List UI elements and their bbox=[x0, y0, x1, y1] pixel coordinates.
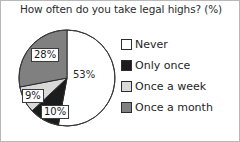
legend-label-never: Never bbox=[135, 39, 168, 50]
legend-swatch-never-icon bbox=[121, 39, 132, 50]
legend-label-once-a-month: Once a month bbox=[135, 102, 213, 113]
pie-chart-figure: How often do you take legal highs? (%) 5… bbox=[0, 0, 240, 142]
chart-title: How often do you take legal highs? (%) bbox=[1, 3, 240, 15]
legend-label-only-once: Only once bbox=[135, 60, 190, 71]
slice-label-once-a-week: 9% bbox=[22, 89, 44, 103]
legend-swatch-once-a-week-icon bbox=[121, 81, 132, 92]
legend-label-once-a-week: Once a week bbox=[135, 81, 206, 92]
legend-item-once-a-month: Once a month bbox=[121, 97, 233, 118]
legend-swatch-only-once-icon bbox=[121, 60, 132, 71]
slice-label-only-once: 10% bbox=[41, 105, 69, 119]
slice-label-once-a-month: 28% bbox=[31, 48, 59, 62]
legend-item-only-once: Only once bbox=[121, 55, 233, 76]
slice-label-never: 53% bbox=[73, 69, 95, 80]
legend-item-never: Never bbox=[121, 34, 233, 55]
chart-legend: Never Only once Once a week Once a month bbox=[121, 34, 233, 118]
legend-swatch-once-a-month-icon bbox=[121, 102, 132, 113]
legend-item-once-a-week: Once a week bbox=[121, 76, 233, 97]
pie-plot-area: 53% 10% 9% 28% bbox=[18, 28, 118, 130]
